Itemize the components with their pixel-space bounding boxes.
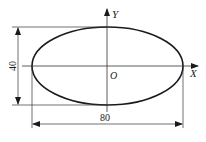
origin-label: O <box>110 70 117 81</box>
width-dimension-label: 80 <box>100 112 110 123</box>
height-dimension-label: 40 <box>7 61 18 71</box>
x-axis-label: X <box>189 67 198 79</box>
ellipse-drawing: Y X O 80 40 <box>0 0 206 142</box>
y-axis-label: Y <box>112 8 120 20</box>
